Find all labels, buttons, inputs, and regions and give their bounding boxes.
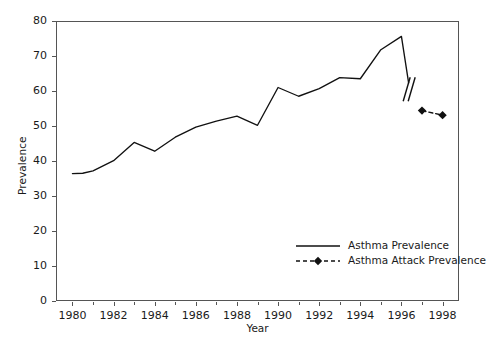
axis-break-marks (403, 77, 415, 101)
legend-item[interactable]: Asthma Attack Prevalence (295, 253, 486, 268)
dashed-diamond-key (295, 255, 341, 267)
legend-item[interactable]: Asthma Prevalence (295, 238, 486, 253)
data-point-marker (438, 111, 446, 119)
data-point-marker (418, 106, 426, 114)
legend-label: Asthma Attack Prevalence (348, 255, 486, 266)
chart-legend: Asthma PrevalenceAsthma Attack Prevalenc… (295, 238, 486, 268)
series-line-asthma-prevalence (72, 36, 408, 173)
legend-label: Asthma Prevalence (348, 240, 449, 251)
solid-line-key (295, 240, 341, 252)
